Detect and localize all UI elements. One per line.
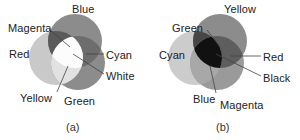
label-black: Black [263,72,290,84]
label-blue: Blue [193,93,215,105]
label-white: White [106,70,135,82]
color-models-figure: Blue Magenta Red Cyan White Yellow Green [0,0,300,140]
label-green: Green [172,22,203,34]
label-yellow: Yellow [224,3,256,15]
label-magenta: Magenta [220,99,264,111]
label-magenta: Magenta [8,22,52,34]
label-red: Red [263,51,283,63]
panel-additive-primaries: Blue Magenta Red Cyan White Yellow Green [0,0,150,140]
caption-a: (a) [66,121,79,133]
label-red: Red [9,48,29,60]
panel-subtractive-primaries: Yellow Green Cyan Red Black Blue Magenta [150,0,300,140]
label-yellow: Yellow [20,92,52,104]
label-green: Green [64,95,95,107]
caption-b: (b) [216,121,229,133]
label-cyan: Cyan [106,49,132,61]
venn-diagram-subtractive [150,0,300,140]
label-blue: Blue [72,3,94,15]
label-cyan: Cyan [159,49,185,61]
